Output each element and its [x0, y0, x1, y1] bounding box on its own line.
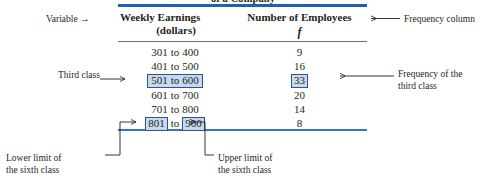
table-row: 601to700 20	[118, 89, 367, 103]
class-to-word: to	[168, 117, 183, 129]
annotation-frequency-of-third-class-line2: third class	[398, 80, 437, 92]
class-lower-limit: 301	[151, 46, 168, 58]
class-lower-limit: 501	[151, 74, 168, 86]
table-row-sixth-class: 801to900 8	[118, 117, 367, 131]
frequency-cell: 9	[232, 46, 367, 58]
annotation-variable: Variable →	[46, 13, 90, 25]
class-to-word: to	[168, 60, 183, 72]
class-upper-limit: 700	[182, 89, 199, 101]
class-to-word: to	[168, 46, 183, 58]
frequency-cell: 20	[232, 89, 367, 101]
class-interval-cell: 701to800	[118, 103, 232, 115]
annotation-frequency-column: Frequency column	[404, 13, 475, 25]
class-to-word: to	[168, 103, 183, 115]
table-row-third-class: 501to600 33	[118, 74, 367, 88]
table-top-rule	[118, 4, 367, 7]
class-interval-cell: 601to700	[118, 89, 232, 101]
annotation-lower-limit-line1: Lower limit of	[6, 152, 61, 164]
class-interval-cell-highlighted: 501to600	[118, 74, 232, 88]
table-row: 401to500 16	[118, 60, 367, 74]
sixth-class-upper-limit-highlight: 900	[182, 117, 205, 131]
third-class-frequency-highlight: 33	[291, 74, 308, 88]
class-interval-cell-highlighted: 801to900	[118, 117, 232, 131]
table-header-rule	[118, 41, 367, 42]
annotation-frequency-of-third-class-line1: Frequency of the	[398, 68, 462, 80]
column-header-weekly-earnings: Weekly Earnings	[120, 11, 250, 23]
column-header-number-of-employees: Number of Employees	[232, 11, 367, 23]
annotation-upper-limit-line2: the sixth class	[218, 164, 271, 176]
class-lower-limit: 601	[151, 89, 168, 101]
frequency-distribution-figure: of a Company Weekly Earnings (dollars) N…	[0, 0, 490, 186]
annotation-upper-limit-line1: Upper limit of	[218, 152, 272, 164]
class-interval-cell: 401to500	[118, 60, 232, 72]
class-upper-limit: 400	[182, 46, 199, 58]
class-upper-limit: 800	[182, 103, 199, 115]
class-upper-limit: 600	[182, 74, 199, 86]
class-lower-limit: 401	[151, 60, 168, 72]
frequency-cell: 16	[232, 60, 367, 72]
sixth-class-lower-limit-highlight: 801	[145, 117, 168, 131]
class-to-word: to	[168, 89, 183, 101]
class-to-word: to	[168, 74, 183, 86]
frequency-cell: 14	[232, 103, 367, 115]
column-header-frequency-symbol: f	[232, 25, 367, 40]
table-row: 701to800 14	[118, 103, 367, 117]
class-interval-cell: 301to400	[118, 46, 232, 58]
annotation-third-class: Third class	[58, 69, 100, 81]
frequency-cell: 8	[232, 117, 367, 129]
column-header-weekly-earnings-units: (dollars)	[120, 24, 232, 36]
class-lower-limit: 701	[151, 103, 168, 115]
annotation-lower-limit-line2: the sixth class	[6, 164, 59, 176]
class-upper-limit: 500	[182, 60, 199, 72]
third-class-interval-highlight: 501to600	[147, 74, 203, 88]
frequency-cell-highlighted: 33	[232, 74, 367, 88]
table-row: 301to400 9	[118, 46, 367, 60]
